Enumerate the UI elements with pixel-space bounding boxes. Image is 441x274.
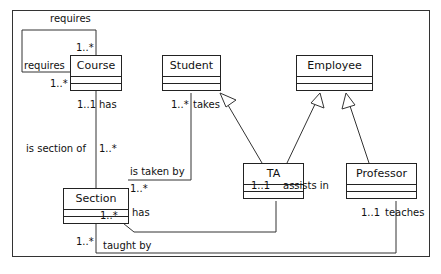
- professor-teaches-multiplicity: 1..1: [361, 207, 380, 219]
- class-section[interactable]: Section: [63, 188, 129, 224]
- class-name: Section: [64, 189, 128, 210]
- attributes-compartment: [71, 77, 121, 84]
- operations-compartment: [71, 84, 121, 90]
- is-section-of-label: is section of: [26, 143, 86, 155]
- class-course[interactable]: Course: [70, 55, 122, 91]
- operations-compartment: [297, 84, 372, 90]
- is-taken-by-multiplicity: 1..*: [130, 183, 148, 195]
- class-professor[interactable]: Professor: [346, 163, 417, 199]
- attributes-compartment: [347, 185, 416, 192]
- attributes-compartment: [163, 77, 220, 84]
- section-has-multiplicity: 1..*: [100, 210, 118, 222]
- class-name: Student: [163, 56, 220, 77]
- requires-top-multiplicity: 1..*: [76, 42, 94, 54]
- professor-teaches-label: teaches: [385, 207, 424, 219]
- operations-compartment: [244, 192, 303, 198]
- requires-left-label: requires: [24, 60, 65, 72]
- operations-compartment: [163, 84, 220, 90]
- is-section-of-multiplicity: 1..*: [99, 143, 117, 155]
- class-name: Course: [71, 56, 121, 77]
- ta-assists-label: assists in: [283, 180, 329, 192]
- class-employee[interactable]: Employee: [296, 55, 373, 91]
- taught-by-multiplicity: 1..*: [76, 236, 94, 248]
- requires-top-label: requires: [50, 13, 91, 25]
- student-takes-label: takes: [193, 99, 220, 111]
- course-has-multiplicity: 1..1: [77, 99, 96, 111]
- ta-assists-multiplicity: 1..1: [251, 180, 270, 192]
- attributes-compartment: [297, 77, 372, 84]
- attributes-compartment: [64, 210, 128, 217]
- student-takes-multiplicity: 1..*: [171, 99, 189, 111]
- section-has-label: has: [132, 207, 150, 219]
- operations-compartment: [64, 217, 128, 223]
- class-name: Professor: [347, 164, 416, 185]
- association-lines: [0, 0, 441, 274]
- course-has-label: has: [99, 99, 117, 111]
- is-taken-by-label: is taken by: [130, 166, 185, 178]
- operations-compartment: [347, 192, 416, 198]
- class-student[interactable]: Student: [162, 55, 221, 91]
- class-name: Employee: [297, 56, 372, 77]
- requires-left-multiplicity: 1..*: [50, 78, 68, 90]
- taught-by-label: taught by: [103, 240, 151, 252]
